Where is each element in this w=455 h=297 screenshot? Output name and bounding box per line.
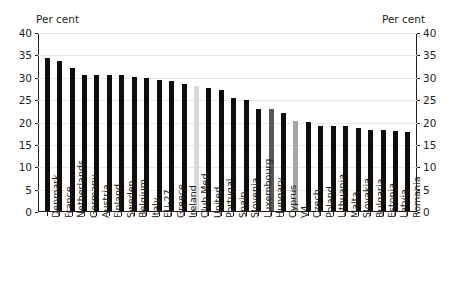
x-axis-label-slot: Denmark: [41, 218, 53, 296]
x-axis-category-label: Netherlands: [76, 160, 86, 218]
right-axis-tick: [417, 123, 420, 124]
bar-chart: Per cent Per cent 4040353530302525202015…: [0, 0, 455, 297]
left-axis-tick: [35, 212, 38, 213]
left-axis-tick: [35, 55, 38, 56]
x-axis-label-slot: Portugal: [215, 218, 227, 296]
x-axis-category-label: V4: [299, 205, 309, 218]
x-axis-label-slot: Romania: [402, 218, 414, 296]
x-axis-label-slot: Poland: [315, 218, 327, 296]
x-axis-category-label: Club Med: [200, 174, 210, 218]
left-axis-tick-label: 0: [25, 207, 32, 217]
x-axis-label-slot: Latvia: [389, 218, 401, 296]
x-axis-label-slot: Germany: [78, 218, 90, 296]
x-axis-label-slot: Malta: [340, 218, 352, 296]
x-axis-category-label: Finland: [113, 184, 123, 218]
x-axis-label-slot: Austria: [91, 218, 103, 296]
x-axis-label-slot: V4: [290, 218, 302, 296]
x-axis-category-labels: DenmarkFranceNetherlandsGermanyAustriaFi…: [39, 218, 416, 296]
right-axis-tick-label: 5: [423, 185, 430, 195]
left-axis-tick-label: 15: [19, 140, 32, 150]
x-axis-category-label: Estonia: [387, 183, 397, 218]
x-axis-category-label: Ireland: [188, 185, 198, 218]
x-axis-category-label: Austria: [100, 184, 110, 218]
right-axis-tick: [417, 100, 420, 101]
bar-slot: [302, 33, 314, 211]
x-axis-label-slot: Ireland: [178, 218, 190, 296]
x-axis-label-slot: United: [203, 218, 215, 296]
right-axis-unit-label: Per cent: [382, 14, 425, 25]
left-axis-tick-label: 10: [19, 162, 32, 172]
x-axis-label-slot: Bulgaria: [364, 218, 376, 296]
x-axis-category-label: Sweden: [125, 180, 135, 218]
x-axis-label-slot: Belgium: [128, 218, 140, 296]
x-axis-label-slot: Cyprus: [277, 218, 289, 296]
x-axis-label-slot: EU-27: [153, 218, 165, 296]
x-axis-label-slot: Finland: [103, 218, 115, 296]
x-axis-label-slot: Club Med: [190, 218, 202, 296]
right-axis-tick: [417, 78, 420, 79]
x-axis-category-label: Germany: [88, 174, 98, 218]
x-axis-category-label: Czech: [312, 189, 322, 218]
right-axis-tick: [417, 145, 420, 146]
x-axis-label-slot: Czech: [302, 218, 314, 296]
left-axis-tick: [35, 78, 38, 79]
left-axis-tick: [35, 145, 38, 146]
x-axis-category-label: Luxembourg: [262, 159, 272, 218]
right-axis-tick-label: 15: [423, 140, 436, 150]
x-axis-category-label: EU-27: [163, 190, 173, 218]
x-axis-category-label: United: [212, 187, 222, 218]
left-axis-tick-label: 5: [25, 185, 32, 195]
x-axis-label-slot: France: [53, 218, 65, 296]
x-axis-label-slot: Slovenia: [240, 218, 252, 296]
bar-slot: [153, 33, 165, 211]
left-axis-tick: [35, 123, 38, 124]
x-axis-category-label: Lithuania: [337, 174, 347, 218]
left-axis-tick: [35, 190, 38, 191]
x-axis-category-label: Spain: [237, 191, 247, 218]
bar-slot: [315, 33, 327, 211]
x-axis-category-label: Greece: [175, 184, 185, 218]
x-axis-label-slot: Sweden: [116, 218, 128, 296]
x-axis-category-label: Portugal: [225, 179, 235, 218]
x-axis-category-label: Cyprus: [287, 185, 297, 218]
right-axis-tick-label: 20: [423, 118, 436, 128]
left-axis-unit-label: Per cent: [36, 14, 79, 25]
left-axis-tick-label: 35: [19, 50, 32, 60]
right-axis-tick: [417, 55, 420, 56]
right-axis-tick-label: 25: [423, 95, 436, 105]
x-axis-category-label: France: [63, 186, 73, 218]
left-axis-tick: [35, 33, 38, 34]
x-axis-label-slot: Lithuania: [327, 218, 339, 296]
x-axis-category-label: Romania: [411, 176, 421, 218]
left-axis-tick-label: 25: [19, 95, 32, 105]
x-axis-category-label: Latvia: [399, 189, 409, 218]
right-axis-tick-label: 30: [423, 73, 436, 83]
left-axis-tick-label: 30: [19, 73, 32, 83]
x-axis-label-slot: Spain: [228, 218, 240, 296]
x-axis-label-slot: Luxembourg: [252, 218, 264, 296]
right-axis-tick-label: 0: [423, 207, 430, 217]
x-axis-category-label: Belgium: [138, 179, 148, 218]
right-axis-tick: [417, 167, 420, 168]
x-axis-tick: [47, 212, 48, 216]
right-axis-tick-label: 35: [423, 50, 436, 60]
x-axis-category-label: Hungary: [275, 177, 285, 218]
x-axis-category-label: Malta: [349, 192, 359, 218]
x-axis-label-slot: Netherlands: [66, 218, 78, 296]
x-axis-label-slot: Estonia: [377, 218, 389, 296]
x-axis-category-label: Slovakia: [362, 178, 372, 218]
left-axis-tick: [35, 100, 38, 101]
x-axis-label-slot: Italy: [141, 218, 153, 296]
x-axis-label-slot: Slovakia: [352, 218, 364, 296]
x-axis-category-label: Bulgaria: [374, 179, 384, 218]
x-axis-category-label: Poland: [324, 186, 334, 218]
left-axis-tick-label: 20: [19, 118, 32, 128]
x-axis-category-label: Denmark: [51, 174, 61, 218]
left-axis-tick-label: 40: [19, 28, 32, 38]
right-axis-tick-label: 10: [423, 162, 436, 172]
x-axis-label-slot: Hungary: [265, 218, 277, 296]
x-axis-category-label: Italy: [150, 197, 160, 218]
x-axis-category-label: Slovenia: [250, 178, 260, 218]
right-axis-tick: [417, 33, 420, 34]
right-axis-tick-label: 40: [423, 28, 436, 38]
